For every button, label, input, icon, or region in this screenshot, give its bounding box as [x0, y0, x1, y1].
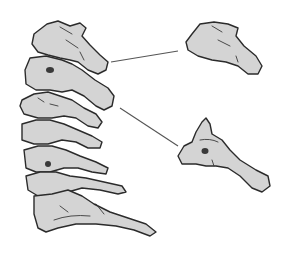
vertebra-c5 — [24, 146, 108, 174]
leader-line-lower — [120, 108, 178, 146]
cervical-spine-illustration — [0, 0, 289, 256]
vertebra-detail-lower — [178, 118, 270, 192]
vertebra-c7 — [34, 190, 156, 236]
spine-column — [20, 21, 156, 236]
vertebra-c6 — [26, 172, 126, 196]
leader-line-upper — [111, 51, 178, 62]
vertebra-detail-upper — [186, 22, 262, 74]
